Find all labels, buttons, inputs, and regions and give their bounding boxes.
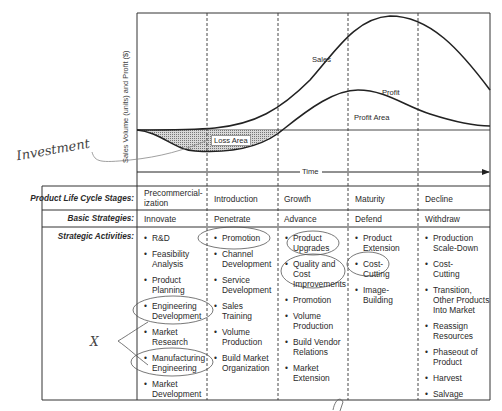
activity-item: Market Extension xyxy=(284,363,348,383)
stage-introduction: Introduction xyxy=(214,194,258,204)
profit-area-label: Profit Area xyxy=(354,113,389,122)
sales-label: Sales xyxy=(312,55,331,64)
activity-item: Build Vendor Relations xyxy=(284,337,348,357)
activities-introduction: Promotion Channel Development Service De… xyxy=(213,233,277,379)
row-label-stages: Product Life Cycle Stages: xyxy=(30,194,134,203)
activity-item: Engineering Development xyxy=(143,301,207,321)
strategy-defend: Defend xyxy=(355,214,382,224)
activity-item: Build Market Organization xyxy=(213,353,277,373)
strategy-penetrate: Penetrate xyxy=(214,214,250,224)
activities-growth: Product Upgrades Quality and Cost Improv… xyxy=(284,233,348,389)
activity-item: Cost- Cutting xyxy=(424,259,490,279)
activity-item: Promotion xyxy=(213,233,277,243)
stage-decline: Decline xyxy=(425,194,453,204)
stage-precommercialization: Precommercial- ization xyxy=(144,188,203,208)
strategy-withdraw: Withdraw xyxy=(425,214,460,224)
activities-decline: Production Scale-Down Cost- Cutting Tran… xyxy=(424,233,490,405)
stage-maturity: Maturity xyxy=(355,194,385,204)
activity-item: Channel Development xyxy=(213,249,277,269)
activity-item: Quality and Cost Improvements xyxy=(284,259,348,289)
strategy-advance: Advance xyxy=(284,214,317,224)
y-axis-label: Sales Volume (units) and Profit ($) xyxy=(121,50,130,163)
activity-item: Volume Production xyxy=(284,311,348,331)
activity-item: Image- Building xyxy=(354,285,418,305)
sales-curve xyxy=(137,16,490,130)
activity-item: Volume Production xyxy=(213,327,277,347)
activity-item: Service Development xyxy=(213,275,277,295)
activity-item: Market Research xyxy=(143,327,207,347)
activity-item: Transition, Other Products Into Market xyxy=(424,285,490,315)
stage-growth: Growth xyxy=(284,194,311,204)
row-label-activities: Strategic Activities: xyxy=(58,232,134,241)
row-label-strategies: Basic Strategies: xyxy=(68,214,134,223)
profit-label: Profit xyxy=(382,88,400,97)
activity-item: Reassign Resources xyxy=(424,321,490,341)
activity-item: Phaseout of Product xyxy=(424,347,490,367)
activity-item: Harvest xyxy=(424,373,490,383)
activities-maturity: Product Extension Cost- Cutting Image- B… xyxy=(354,233,418,311)
activity-item: Promotion xyxy=(284,295,348,305)
activity-item: Manufacturing Engineering xyxy=(143,353,207,373)
strategy-innovate: Innovate xyxy=(144,214,176,224)
activity-item: Feasibility Analysis xyxy=(143,249,207,269)
activities-precommercialization: R&D Feasibility Analysis Product Plannin… xyxy=(143,233,207,405)
activity-item: Production Scale-Down xyxy=(424,233,490,253)
activity-item: Salvage xyxy=(424,389,490,399)
activity-item: Product Planning xyxy=(143,275,207,295)
activity-item: Product Extension xyxy=(354,233,418,253)
time-axis-label: Time xyxy=(302,167,319,176)
activity-item: Product Upgrades xyxy=(284,233,348,253)
activity-item: Sales Training xyxy=(213,301,277,321)
activity-item: Cost- Cutting xyxy=(354,259,418,279)
activity-item: R&D xyxy=(143,233,207,243)
handwritten-mark: Ⅹ xyxy=(90,335,99,349)
loss-area-label: Loss Area xyxy=(211,135,251,146)
activity-item: Market Development xyxy=(143,379,207,399)
